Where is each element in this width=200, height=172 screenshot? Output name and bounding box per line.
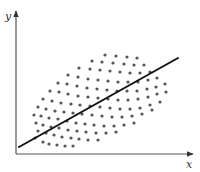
- data-point: [90, 59, 93, 62]
- data-point: [106, 79, 109, 82]
- data-point: [34, 121, 37, 124]
- data-point: [90, 113, 93, 116]
- data-point: [95, 87, 98, 90]
- data-point: [96, 138, 99, 141]
- data-point: [138, 71, 141, 74]
- data-point: [122, 123, 125, 126]
- data-point: [71, 111, 74, 114]
- data-point: [132, 121, 135, 124]
- data-point: [136, 97, 139, 100]
- regression-line: [19, 58, 178, 147]
- data-point: [41, 97, 44, 100]
- scatter-chart: y x: [0, 0, 200, 172]
- data-point: [116, 80, 119, 83]
- data-point: [122, 62, 125, 65]
- data-point: [63, 144, 66, 147]
- data-point: [41, 123, 44, 126]
- data-point: [85, 86, 88, 89]
- data-point: [53, 109, 56, 112]
- data-point: [98, 68, 101, 71]
- data-point: [76, 75, 79, 78]
- data-point: [66, 128, 69, 131]
- data-point: [76, 94, 79, 97]
- data-point: [138, 106, 141, 109]
- data-point: [94, 131, 97, 134]
- data-point: [105, 88, 108, 91]
- data-point: [158, 100, 161, 103]
- data-point: [39, 114, 42, 117]
- data-point: [48, 89, 51, 92]
- data-point: [120, 115, 123, 118]
- data-point: [69, 136, 72, 139]
- data-point: [92, 123, 95, 126]
- data-point: [98, 105, 101, 108]
- data-point: [148, 103, 151, 106]
- data-point: [126, 80, 129, 83]
- data-point: [77, 66, 80, 69]
- data-point: [66, 73, 69, 76]
- data-point: [69, 102, 72, 105]
- data-point: [62, 110, 65, 113]
- data-point: [50, 99, 53, 102]
- data-point: [130, 114, 133, 117]
- data-point: [75, 129, 78, 132]
- data-point: [47, 142, 50, 145]
- data-point: [86, 77, 89, 80]
- data-point: [163, 82, 166, 85]
- data-point: [150, 108, 153, 111]
- data-point: [140, 112, 143, 115]
- data-point: [116, 98, 119, 101]
- data-point: [102, 124, 105, 127]
- data-point: [104, 131, 107, 134]
- data-point: [135, 56, 138, 59]
- data-point: [135, 89, 138, 92]
- data-point: [128, 71, 131, 74]
- scatter-points: [32, 53, 167, 147]
- data-point: [83, 122, 86, 125]
- data-point: [110, 115, 113, 118]
- data-point: [88, 67, 91, 70]
- data-point: [146, 95, 149, 98]
- data-point: [132, 63, 135, 66]
- data-point: [66, 92, 69, 95]
- data-point: [146, 78, 149, 81]
- data-point: [118, 70, 121, 73]
- data-point: [78, 103, 81, 106]
- data-point: [57, 90, 60, 93]
- data-point: [154, 85, 157, 88]
- data-point: [155, 92, 158, 95]
- data-point: [126, 98, 129, 101]
- data-point: [100, 60, 103, 63]
- data-point: [86, 138, 89, 141]
- data-point: [108, 106, 111, 109]
- x-axis-label: x: [186, 158, 193, 171]
- data-point: [77, 137, 80, 140]
- data-point: [114, 130, 117, 133]
- data-point: [32, 113, 35, 116]
- data-point: [86, 95, 89, 98]
- data-point: [145, 87, 148, 90]
- data-point: [111, 61, 114, 64]
- data-point: [65, 82, 68, 85]
- data-point: [112, 124, 115, 127]
- data-point: [60, 135, 63, 138]
- data-point: [56, 81, 59, 84]
- data-point: [36, 105, 39, 108]
- data-point: [108, 69, 111, 72]
- data-point: [118, 107, 121, 110]
- data-point: [114, 54, 117, 57]
- data-point: [57, 126, 60, 129]
- data-point: [155, 76, 158, 79]
- data-point: [96, 78, 99, 81]
- data-point: [125, 89, 128, 92]
- data-point: [74, 121, 77, 124]
- data-point: [71, 144, 74, 147]
- data-point: [75, 84, 78, 87]
- data-point: [41, 140, 44, 143]
- data-point: [96, 96, 99, 99]
- data-point: [164, 90, 167, 93]
- data-point: [103, 53, 106, 56]
- data-point: [47, 116, 50, 119]
- data-point: [44, 107, 47, 110]
- y-axis-label: y: [4, 10, 12, 23]
